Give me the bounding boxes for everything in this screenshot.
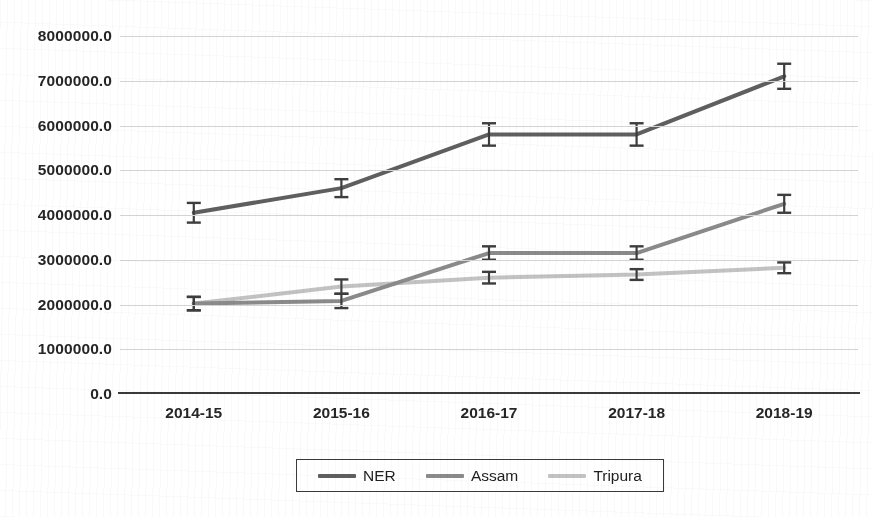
x-axis: 2014-152015-162016-172017-182018-19 — [120, 404, 858, 430]
legend-item-tripura[interactable]: Tripura — [548, 467, 642, 485]
x-axis-tick-label: 2014-15 — [165, 404, 222, 422]
plot-area — [120, 36, 858, 394]
legend-label: Assam — [471, 467, 518, 485]
y-axis-tick-label: 0.0 — [0, 385, 112, 403]
legend-swatch-icon — [318, 474, 356, 478]
legend-item-ner[interactable]: NER — [318, 467, 396, 485]
gridline — [120, 349, 858, 350]
line-chart: 8000000.07000000.06000000.05000000.04000… — [0, 0, 873, 517]
y-axis-tick-label: 7000000.0 — [0, 72, 112, 90]
y-axis: 8000000.07000000.06000000.05000000.04000… — [0, 0, 112, 517]
legend-swatch-icon — [548, 474, 586, 478]
legend-item-assam[interactable]: Assam — [426, 467, 518, 485]
x-axis-tick-label: 2017-18 — [608, 404, 665, 422]
y-axis-tick-label: 6000000.0 — [0, 117, 112, 135]
x-axis-tick-label: 2016-17 — [461, 404, 518, 422]
y-axis-tick-label: 3000000.0 — [0, 251, 112, 269]
y-axis-tick-label: 4000000.0 — [0, 206, 112, 224]
gridline — [120, 215, 858, 216]
gridline — [120, 260, 858, 261]
y-axis-tick-label: 1000000.0 — [0, 340, 112, 358]
legend-swatch-icon — [426, 474, 464, 478]
gridline — [120, 81, 858, 82]
legend-label: Tripura — [593, 467, 642, 485]
y-axis-tick-label: 2000000.0 — [0, 296, 112, 314]
y-axis-tick-label: 8000000.0 — [0, 27, 112, 45]
gridline — [120, 305, 858, 306]
x-axis-line — [118, 392, 860, 394]
gridline — [120, 36, 858, 37]
gridline — [120, 126, 858, 127]
legend-label: NER — [363, 467, 396, 485]
chart-legend: NERAssamTripura — [296, 459, 664, 492]
gridline — [120, 170, 858, 171]
x-axis-tick-label: 2018-19 — [756, 404, 813, 422]
x-axis-tick-label: 2015-16 — [313, 404, 370, 422]
y-axis-tick-label: 5000000.0 — [0, 161, 112, 179]
